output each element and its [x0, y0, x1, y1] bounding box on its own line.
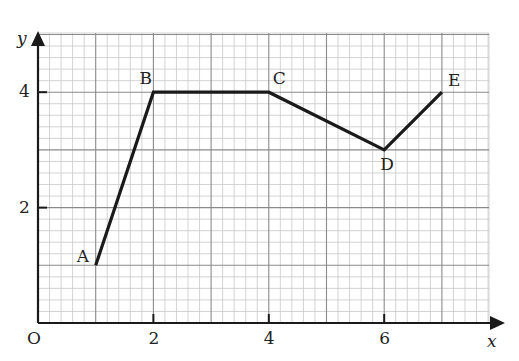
- y-axis-label: y: [17, 30, 27, 47]
- grid-minor: [38, 33, 489, 323]
- point-label-c: C: [273, 70, 286, 87]
- point-label-d: D: [380, 156, 394, 173]
- x-axis-arrow-icon: [490, 316, 505, 330]
- x-tick-label: 6: [379, 330, 390, 347]
- origin-label: O: [27, 330, 41, 347]
- x-axis-label: x: [487, 333, 497, 350]
- point-label-b: B: [139, 70, 152, 87]
- point-label-a: A: [77, 248, 89, 265]
- x-tick-label: 4: [264, 330, 275, 347]
- axes: [31, 31, 505, 330]
- grid-major: [38, 33, 489, 323]
- x-tick-label: 2: [148, 330, 159, 347]
- y-tick-label: 4: [19, 83, 30, 100]
- y-tick-label: 2: [19, 199, 30, 216]
- point-label-e: E: [448, 72, 460, 89]
- line-chart: [0, 0, 519, 361]
